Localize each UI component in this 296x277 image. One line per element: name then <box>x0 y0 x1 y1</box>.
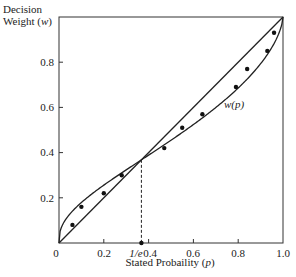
y-axis-label-line2: Weight (w) <box>3 15 52 27</box>
data-point <box>70 223 74 227</box>
data-point <box>272 31 276 35</box>
y-axis-label: Decision Weight (w) <box>3 3 52 27</box>
diagonal-line <box>59 17 283 243</box>
data-point <box>79 205 83 209</box>
data-point <box>200 112 204 116</box>
y-tick-0.6: 0.6 <box>30 101 54 113</box>
data-point <box>265 49 269 53</box>
y-tick-0.8: 0.8 <box>30 56 54 68</box>
data-point <box>180 126 184 130</box>
plot-area <box>0 0 296 277</box>
y-tick-0.2: 0.2 <box>30 192 54 204</box>
data-point <box>245 67 249 71</box>
inverse-e-marker <box>139 241 143 245</box>
data-point <box>162 146 166 150</box>
data-point <box>120 173 124 177</box>
data-point <box>102 191 106 195</box>
decision-weight-chart: Decision Weight (w) 0.2 0.4 0.6 0.8 0 0.… <box>0 0 296 277</box>
curve-label-wp: w(p) <box>224 98 244 110</box>
y-axis-label-line1: Decision <box>3 3 42 15</box>
y-tick-0.4: 0.4 <box>30 146 54 158</box>
data-point <box>234 85 238 89</box>
x-axis-label: Stated Probaility (p) <box>0 256 296 268</box>
